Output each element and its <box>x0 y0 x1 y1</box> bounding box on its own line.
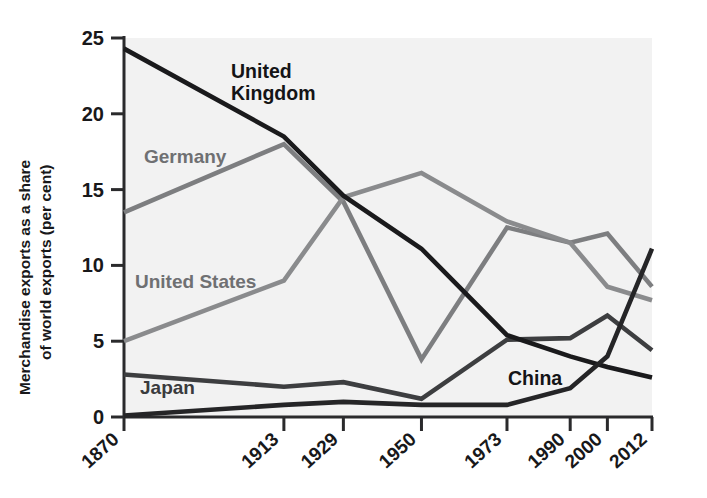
y-axis-ticks: 0510152025 <box>82 27 124 428</box>
annotation-germany: Germany <box>144 146 227 167</box>
chart-figure: 0510152025 18701913192919501973199020002… <box>0 0 707 498</box>
x-tick-label: 1973 <box>460 428 505 472</box>
line-chart: 0510152025 18701913192919501973199020002… <box>0 0 707 498</box>
x-tick-label: 1950 <box>375 428 420 472</box>
annotation-united-kingdom-line2: Kingdom <box>231 82 315 104</box>
y-tick-label: 0 <box>93 406 104 428</box>
y-tick-label: 20 <box>82 103 104 125</box>
y-axis-title: Merchandise exports as a share of world … <box>16 159 54 395</box>
y-tick-label: 25 <box>82 27 104 49</box>
y-tick-label: 15 <box>82 179 104 201</box>
annotation-japan: Japan <box>140 377 195 398</box>
annotation-united-kingdom-line1: United <box>231 60 292 82</box>
x-tick-label: 2000 <box>561 428 606 472</box>
y-axis-title-line2: of world exports (per cent) <box>37 165 54 361</box>
x-tick-label: 2012 <box>605 428 650 472</box>
y-tick-label: 5 <box>93 330 104 352</box>
annotation-united-states: United States <box>135 271 256 292</box>
x-tick-label: 1929 <box>297 428 342 472</box>
annotation-china: China <box>508 367 562 389</box>
x-axis-ticks: 18701913192919501973199020002012 <box>77 417 652 472</box>
x-tick-label: 1990 <box>523 428 568 472</box>
y-tick-label: 10 <box>82 254 104 276</box>
y-axis-title-line1: Merchandise exports as a share <box>16 159 33 395</box>
x-tick-label: 1870 <box>77 428 122 472</box>
x-tick-label: 1913 <box>237 428 282 472</box>
